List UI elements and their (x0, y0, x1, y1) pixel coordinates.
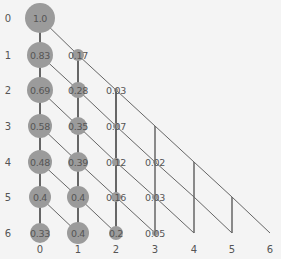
row-label: 1 (5, 50, 11, 61)
node-value: 1.0 (33, 13, 47, 24)
node-value: 0.4 (71, 192, 85, 203)
node-value: 0.2 (109, 228, 123, 239)
row-label: 3 (5, 121, 11, 132)
node-value: 0.4 (71, 228, 85, 239)
diagonal-edge (194, 162, 232, 197)
node-value: 0.39 (68, 157, 88, 168)
row-label: 6 (5, 228, 11, 239)
row-label: 5 (5, 192, 11, 203)
column-label: 0 (37, 244, 43, 255)
column-label: 3 (152, 244, 158, 255)
diagonal-edge (232, 197, 270, 233)
column-label: 2 (113, 244, 119, 255)
row-label: 4 (5, 157, 11, 168)
node-value: 0.03 (145, 192, 165, 203)
node-value: 0.17 (68, 50, 88, 61)
diagonal-edge (194, 197, 232, 233)
node-value: 0.35 (68, 121, 88, 132)
node-value: 0.02 (145, 157, 165, 168)
node-value: 0.4 (33, 192, 47, 203)
row-label: 2 (5, 85, 11, 96)
column-label: 5 (229, 244, 235, 255)
node-value: 0.12 (106, 157, 126, 168)
column-label: 6 (267, 244, 273, 255)
lattice-diagram: 1.00.830.690.580.480.40.330.170.280.350.… (0, 0, 281, 259)
node-value: 0.69 (30, 85, 50, 96)
node-value: 0.07 (106, 121, 126, 132)
node-value: 0.03 (106, 85, 126, 96)
row-label: 0 (5, 13, 11, 24)
column-label: 1 (75, 244, 81, 255)
node-value: 0.83 (30, 50, 50, 61)
node-value: 0.05 (145, 228, 165, 239)
node-value: 0.33 (30, 228, 50, 239)
column-label: 4 (191, 244, 197, 255)
node-value: 0.58 (30, 121, 50, 132)
node-value: 0.48 (30, 157, 50, 168)
node-value: 0.28 (68, 85, 88, 96)
node-value: 0.16 (106, 192, 126, 203)
